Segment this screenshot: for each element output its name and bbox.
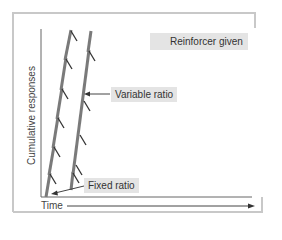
label-fixed-ratio: Fixed ratio (84, 178, 139, 193)
legend-label: Reinforcer given (170, 36, 243, 47)
label-variable-ratio: Variable ratio (111, 87, 177, 102)
fixed-ratio-arrowhead-icon (51, 191, 58, 196)
x-axis-label: Time (41, 200, 63, 211)
y-axis-label: Cumulative responses (26, 66, 37, 165)
variable-ratio-reinforcer-ticks (73, 51, 95, 183)
fixed-ratio-reinforcer-ticks (50, 31, 77, 184)
series-fixed-ratio (46, 30, 71, 197)
legend-reinforcer-given: Reinforcer given (150, 33, 248, 50)
fixed-ratio-pointer (55, 186, 84, 193)
series-variable-ratio (71, 31, 91, 190)
time-arrowhead-icon (248, 204, 255, 209)
